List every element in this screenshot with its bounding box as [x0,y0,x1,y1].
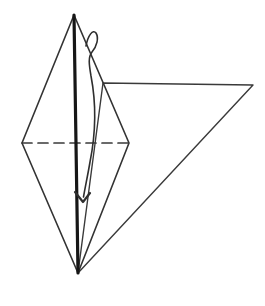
diagram-canvas [0,0,265,306]
flap-triangle [78,83,253,273]
fold-arrow-curve [84,32,98,197]
origami-diagram [0,0,265,306]
center-spine [74,15,78,273]
